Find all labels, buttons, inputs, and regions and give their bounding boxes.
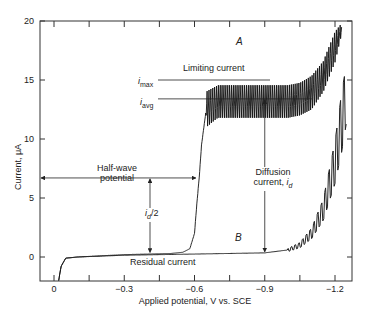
x-tick-label: −0.9 — [250, 284, 280, 294]
half-wave-line1: Half-wave — [82, 163, 152, 173]
x-axis-label: Applied potential, V vs. SCE — [120, 296, 270, 306]
x-tick-label: −0.3 — [109, 284, 139, 294]
i-avg-subscript: avg — [142, 102, 153, 109]
diffusion-subscript: d — [289, 182, 293, 189]
y-tick-label: 20 — [14, 16, 34, 26]
y-tick-label: 0 — [14, 252, 34, 262]
polarogram-chart — [0, 0, 369, 323]
x-tick-label: 0 — [39, 284, 69, 294]
half-wave-potential-label: Half-wave potential — [82, 163, 152, 183]
id-half-rest: /2 — [151, 208, 159, 218]
diffusion-line2: current, — [254, 177, 287, 187]
i-max-subscript: max — [140, 81, 153, 88]
x-tick-label: −0.6 — [180, 284, 210, 294]
i-avg-label: iavg — [140, 97, 153, 111]
curve-b-label: B — [235, 233, 242, 243]
curve-a-label: A — [236, 37, 243, 47]
limiting-current-label: Limiting current — [183, 63, 245, 73]
i-max-label: imax — [138, 76, 153, 90]
y-axis-label: Current, μA — [13, 127, 23, 207]
x-tick-label: −1.2 — [320, 284, 350, 294]
residual-current-label: Residual current — [130, 257, 196, 267]
diffusion-current-label: Diffusion current, id — [238, 167, 308, 191]
y-tick-label: 15 — [14, 75, 34, 85]
id-half-label: id/2 — [144, 208, 159, 222]
half-wave-line2: potential — [82, 173, 152, 183]
diffusion-line1: Diffusion — [238, 167, 308, 177]
